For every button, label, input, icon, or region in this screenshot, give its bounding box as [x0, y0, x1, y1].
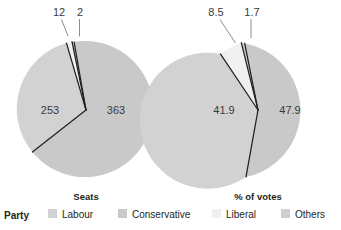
seats-label-others: 2: [77, 6, 83, 18]
legend-swatch-others: [281, 209, 290, 218]
legend-item-others[interactable]: Others: [281, 209, 325, 220]
votes-label-labour: 41.9: [213, 104, 234, 116]
votes-leader-liberal: [220, 20, 236, 44]
votes-label-others: 1.7: [244, 6, 259, 18]
pie-votes: 41.9 47.9 8.5 1.7 % of votes: [140, 6, 301, 202]
legend: Party Labour Conservative Liberal Others: [4, 209, 325, 221]
seats-label-liberal: 12: [53, 6, 65, 18]
pie-seats: 253 363 12 2 Seats: [17, 6, 153, 202]
votes-label-conservative: 47.9: [279, 104, 300, 116]
legend-label-conservative: Conservative: [132, 209, 191, 220]
pie-chart-figure: 253 363 12 2 Seats 41.9: [0, 0, 341, 230]
legend-swatch-liberal: [212, 209, 221, 218]
seats-label-labour: 253: [41, 104, 59, 116]
figure-canvas: 253 363 12 2 Seats 41.9: [0, 0, 341, 230]
legend-label-labour: Labour: [62, 209, 94, 220]
legend-label-liberal: Liberal: [226, 209, 256, 220]
seats-leader-liberal: [62, 20, 69, 37]
legend-swatch-conservative: [118, 209, 127, 218]
legend-item-labour[interactable]: Labour: [48, 209, 94, 220]
legend-item-conservative[interactable]: Conservative: [118, 209, 191, 220]
votes-chart-title: % of votes: [234, 191, 282, 202]
votes-label-liberal: 8.5: [208, 6, 223, 18]
legend-swatch-labour: [48, 209, 57, 218]
legend-label-others: Others: [295, 209, 325, 220]
seats-label-conservative: 363: [107, 104, 125, 116]
legend-heading: Party: [4, 210, 29, 221]
legend-item-liberal[interactable]: Liberal: [212, 209, 256, 220]
seats-chart-title: Seats: [73, 191, 98, 202]
